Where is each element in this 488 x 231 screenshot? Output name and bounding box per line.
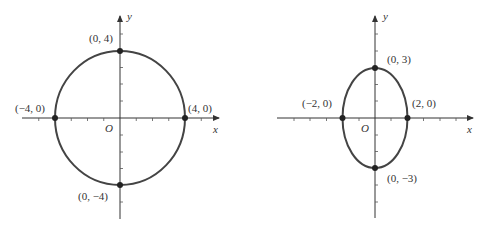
- x-axis-label: x: [466, 123, 472, 135]
- point-bottom: [372, 165, 378, 171]
- point-label-top: (0, 4): [89, 32, 113, 45]
- origin-label: O: [105, 122, 113, 134]
- ellipse-graph: y x O (0, 3) (−2, 0) (2, 0) (0, −3): [277, 10, 473, 218]
- point-label-left: (−4, 0): [15, 102, 45, 115]
- point-right: [405, 115, 411, 121]
- circle-graph: y x O (0, 4) (−4, 0) (4, 0) (0, −4): [15, 10, 219, 219]
- y-axis-label: y: [126, 10, 132, 22]
- point-label-right: (4, 0): [188, 102, 212, 115]
- point-top: [117, 48, 123, 54]
- y-axis-label: y: [382, 10, 388, 22]
- point-right: [182, 115, 188, 121]
- point-label-right: (2, 0): [412, 97, 436, 110]
- point-label-top: (0, 3): [387, 53, 411, 66]
- x-axis-label: x: [212, 123, 218, 135]
- point-label-bottom: (0, −4): [78, 190, 108, 203]
- point-label-left: (−2, 0): [302, 97, 332, 110]
- point-top: [372, 65, 378, 71]
- point-left: [52, 115, 58, 121]
- origin-label: O: [361, 122, 369, 134]
- point-label-bottom: (0, −3): [387, 172, 417, 185]
- figure-canvas: y x O (0, 4) (−4, 0) (4, 0) (0, −4): [0, 0, 488, 231]
- point-left: [340, 115, 346, 121]
- point-bottom: [117, 182, 123, 188]
